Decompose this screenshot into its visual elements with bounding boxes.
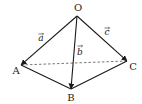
vector-c-arrow [77,16,127,61]
edge-bc [71,61,127,89]
vector-b-letter: b [77,47,83,57]
vector-label-b: b [77,45,83,57]
point-label-c: C [129,61,137,72]
point-label-b: B [67,92,74,103]
edge-ab [21,65,71,89]
tetrahedron-diagram: O A B C a b c [0,0,142,104]
vector-label-c: c [104,27,109,37]
hidden-edge-ac [21,61,127,65]
point-label-a: A [11,65,20,76]
point-label-o: O [74,2,82,13]
vector-a-arrow [21,16,77,65]
vector-label-a: a [38,33,43,43]
vector-b-arrow [71,16,77,89]
